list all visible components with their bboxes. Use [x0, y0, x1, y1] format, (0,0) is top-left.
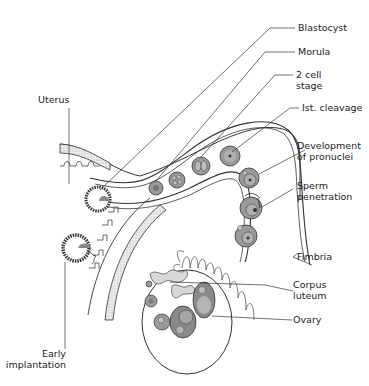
zygote-pronuclei	[239, 168, 259, 188]
ovulated-egg	[235, 225, 257, 247]
label-pronuclei-line2: of pronuclei	[297, 151, 353, 162]
label-fimbria: Fimbria	[297, 251, 332, 262]
label-two-cell-line2: stage	[296, 80, 322, 91]
early-implantation-blastocyst	[63, 235, 96, 264]
embryo-morula	[169, 172, 185, 188]
embryo-first-cleavage	[220, 146, 240, 166]
label-corpus-line2: luteum	[293, 290, 327, 301]
embryo-two-cell	[192, 157, 210, 175]
label-morula: Morula	[298, 46, 330, 57]
label-uterus: Uterus	[38, 94, 69, 105]
label-sperm-line1: Sperm	[297, 180, 328, 191]
embryo-morula-small	[149, 181, 163, 195]
oviduct-outer-wall	[90, 122, 310, 265]
reproduction-diagram: Blastocyst Morula 2 cell stage Ist. clea…	[0, 0, 369, 386]
label-implant-line2: implantation	[0, 359, 66, 370]
label-first-cleavage: Ist. cleavage	[302, 102, 362, 113]
label-implant-line1: Early	[10, 348, 66, 359]
label-two-cell-line1: 2 cell	[296, 69, 321, 80]
label-sperm-line2: penetration	[297, 191, 352, 202]
label-ovary: Ovary	[293, 314, 321, 325]
blastocyst	[86, 187, 110, 211]
label-pronuclei-line1: Development	[297, 140, 361, 151]
label-blastocyst: Blastocyst	[298, 22, 347, 33]
label-corpus-line1: Corpus	[293, 279, 326, 290]
